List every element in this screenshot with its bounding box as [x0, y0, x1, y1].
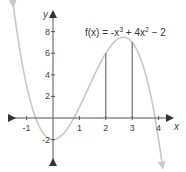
y-tick-label: 2 [45, 91, 50, 101]
x-tick-label: 3 [130, 123, 135, 133]
y-tick-label: 6 [45, 48, 50, 58]
function-label: f(x) = -x3 + 4x2 − 2 [85, 26, 166, 38]
x-tick-label: 1 [77, 123, 82, 133]
axis-ticks: -112348642-2 [23, 27, 162, 145]
function-label-part: f(x) = -x [85, 27, 119, 38]
y-tick-label: -2 [42, 135, 50, 145]
y-tick-label: 8 [45, 27, 50, 37]
x-tick-label: -1 [23, 123, 31, 133]
y-tick-label: 4 [45, 70, 50, 80]
x-axis-label: x [173, 121, 180, 132]
function-graph: -112348642-2 x y f(x) = -x3 + 4x2 − 2 [0, 0, 186, 172]
function-label-part: − 2 [149, 27, 166, 38]
x-tick-label: 4 [156, 123, 161, 133]
function-label-part: + 4x [123, 27, 145, 38]
x-tick-label: 2 [103, 123, 108, 133]
vertical-lines [106, 42, 132, 118]
y-axis-label: y [42, 9, 49, 20]
